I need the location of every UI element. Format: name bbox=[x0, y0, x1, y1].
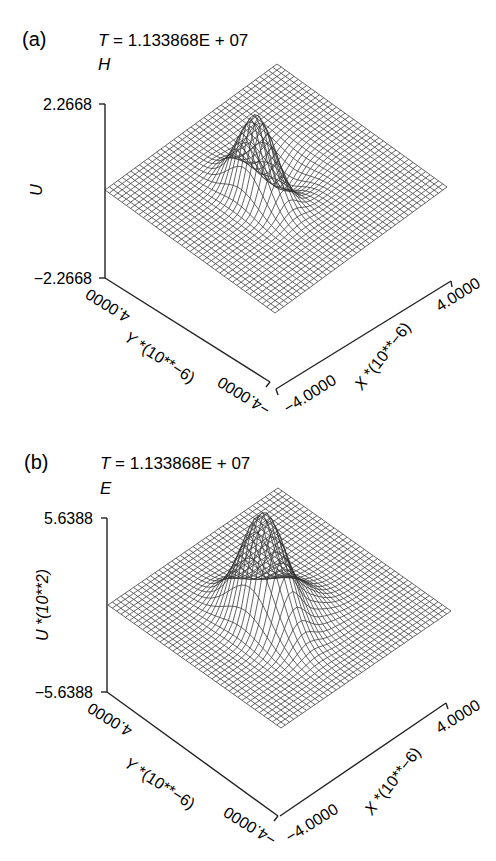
x-tick-near: −4.0000 bbox=[281, 371, 340, 416]
panel-title: T = 1.133868E + 07 bbox=[100, 454, 250, 473]
z-tick-top: 2.2668 bbox=[43, 96, 92, 113]
panel-label: (b) bbox=[24, 451, 48, 473]
x-tick-near: −4.0000 bbox=[283, 800, 342, 845]
x-axis: −4.0000 4.0000 X *(10**−6) bbox=[276, 274, 483, 416]
x-tick-far: 4.0000 bbox=[433, 696, 484, 736]
z-tick-bottom: −2.2668 bbox=[34, 270, 92, 287]
z-tick-bottom: −5.6388 bbox=[35, 684, 93, 701]
x-axis-title: X *(10**−6) bbox=[350, 319, 414, 394]
x-tick-far: 4.0000 bbox=[433, 274, 484, 314]
title-value: = 1.133868E + 07 bbox=[108, 31, 248, 50]
y-axis-title: Y *(10**−6) bbox=[121, 754, 198, 812]
z-axis: 2.2668 −2.2668 U bbox=[28, 96, 105, 287]
figure: (a) T = 1.133868E + 07 H 2.2668 −2.2668 … bbox=[0, 0, 496, 861]
z-axis-title: U bbox=[28, 184, 45, 196]
y-tick-far: 4.0000 bbox=[84, 699, 135, 739]
x-axis: −4.0000 4.0000 X *(10**−6) bbox=[280, 696, 483, 845]
y-axis-title: Y *(10**−6) bbox=[121, 328, 198, 386]
surface-mesh-a bbox=[105, 64, 447, 313]
y-axis: 4.0000 −4.0000 Y *(10**−6) bbox=[84, 692, 279, 849]
y-tick-near: −4.0000 bbox=[214, 373, 273, 418]
z-axis: 5.6388 −5.6388 U *(10**2) bbox=[34, 510, 107, 701]
title-value: = 1.133868E + 07 bbox=[110, 454, 250, 473]
field-label: H bbox=[98, 55, 111, 74]
panel-b: (b) T = 1.133868E + 07 E 5.6388 −5.6388 … bbox=[24, 451, 483, 849]
panel-label: (a) bbox=[22, 28, 46, 50]
field-label: E bbox=[100, 479, 112, 498]
z-tick-top: 5.6388 bbox=[44, 510, 93, 527]
y-axis: 4.0000 −4.0000 Y *(10**−6) bbox=[82, 278, 273, 419]
panel-a: (a) T = 1.133868E + 07 H 2.2668 −2.2668 … bbox=[22, 28, 483, 419]
panel-title: T = 1.133868E + 07 bbox=[98, 31, 248, 50]
surface-mesh-b bbox=[108, 488, 451, 728]
z-axis-title: U *(10**2) bbox=[34, 569, 51, 641]
